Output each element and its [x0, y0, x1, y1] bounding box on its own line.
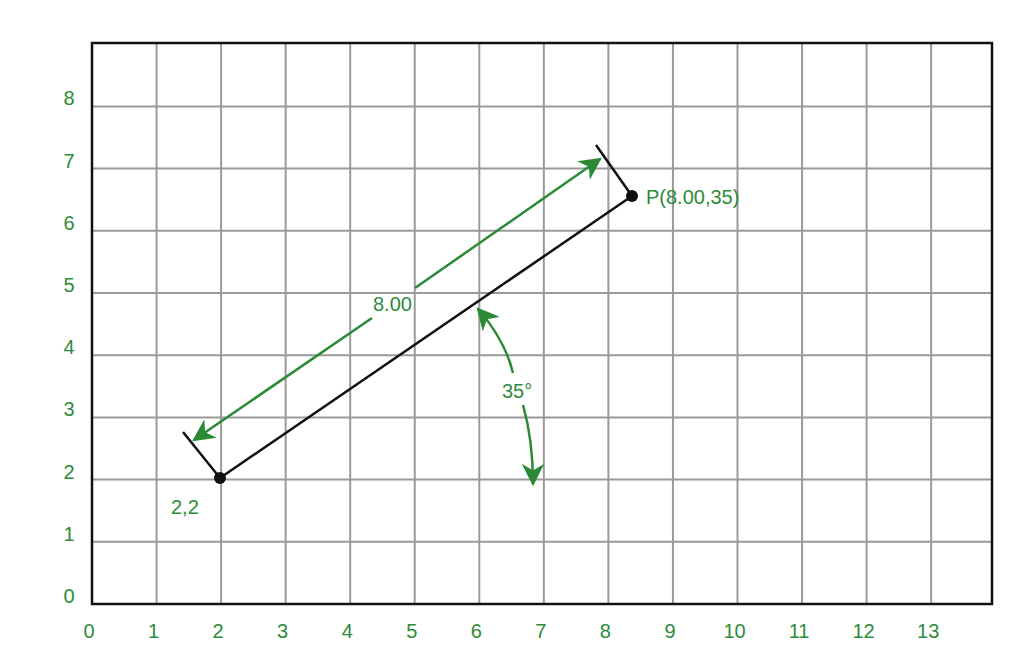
x-tick-label: 4	[342, 620, 353, 642]
plot-frame	[92, 43, 992, 604]
distance-label: 8.00	[373, 293, 412, 315]
x-axis-labels: 012345678910111213	[83, 620, 939, 642]
x-tick-label: 0	[83, 620, 94, 642]
x-tick-label: 11	[789, 620, 810, 642]
polar-segment	[220, 196, 632, 478]
x-tick-label: 2	[213, 620, 224, 642]
x-tick-label: 9	[664, 620, 675, 642]
extension-line-end	[596, 145, 632, 196]
angle-arc-upper	[478, 309, 513, 373]
y-tick-label: 2	[63, 461, 74, 483]
polar-coordinate-diagram: 012345678910111213 012345678 8.00 35° 2,…	[0, 0, 1036, 666]
x-tick-label: 1	[148, 620, 159, 642]
angle-label: 35°	[502, 380, 532, 402]
y-tick-label: 6	[63, 212, 74, 234]
x-tick-label: 5	[406, 620, 417, 642]
x-tick-label: 12	[852, 620, 874, 642]
start-point-label: 2,2	[171, 496, 199, 518]
y-axis-labels: 012345678	[63, 87, 74, 607]
x-tick-label: 13	[917, 620, 939, 642]
y-tick-label: 7	[63, 150, 74, 172]
y-tick-label: 1	[63, 523, 74, 545]
x-tick-label: 8	[600, 620, 611, 642]
y-tick-label: 0	[63, 585, 74, 607]
x-tick-label: 6	[471, 620, 482, 642]
dimension-line-upper	[415, 159, 600, 288]
grid	[92, 43, 992, 604]
y-tick-label: 3	[63, 398, 74, 420]
y-tick-label: 8	[63, 87, 74, 109]
extension-line-start	[183, 432, 220, 478]
x-tick-label: 10	[723, 620, 745, 642]
end-point-label: P(8.00,35)	[646, 186, 739, 208]
end-point-p	[626, 190, 638, 202]
y-tick-label: 4	[63, 336, 74, 358]
x-tick-label: 3	[277, 620, 288, 642]
start-point	[214, 472, 226, 484]
y-tick-label: 5	[63, 274, 74, 296]
x-tick-label: 7	[535, 620, 546, 642]
